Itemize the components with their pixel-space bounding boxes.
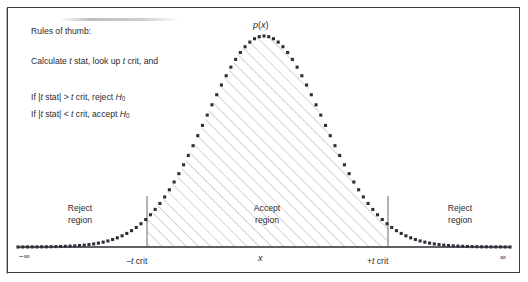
curve-point — [314, 103, 317, 106]
curve-point — [437, 243, 440, 246]
curve-point — [390, 226, 393, 229]
curve-point — [173, 180, 176, 183]
curve-point — [409, 236, 412, 239]
curve-point — [262, 34, 265, 37]
curve-point — [225, 74, 228, 77]
curve-point — [40, 245, 43, 248]
curve-point — [92, 242, 95, 245]
curve-point — [419, 239, 422, 242]
label-reject-region-right: Reject region — [428, 203, 492, 226]
curve-point — [367, 202, 370, 205]
curve-point — [456, 245, 459, 248]
curve-point — [201, 124, 204, 127]
curve-point — [21, 245, 24, 248]
curve-point — [343, 163, 346, 166]
curve-point — [310, 93, 313, 96]
curve-point — [191, 144, 194, 147]
curve-point — [452, 244, 455, 247]
curve-point — [125, 232, 128, 235]
curve-point — [423, 241, 426, 244]
curve-point — [229, 66, 232, 69]
curve-point — [376, 213, 379, 216]
curve-point — [210, 103, 213, 106]
curve-point — [215, 93, 218, 96]
curve-point — [466, 245, 469, 248]
curve-point — [471, 245, 474, 248]
curve-point — [64, 245, 67, 248]
curve-point — [59, 245, 62, 248]
curve-point — [485, 245, 488, 248]
curve-point — [73, 244, 76, 247]
curve-point — [50, 245, 53, 248]
curve-point — [144, 218, 147, 221]
curve-point — [319, 114, 322, 117]
curve-point — [329, 134, 332, 137]
curve-point — [168, 188, 171, 191]
label-reject-region-left: Reject region — [48, 203, 112, 226]
curve-point — [480, 245, 483, 248]
curve-point — [196, 134, 199, 137]
curve-point — [357, 188, 360, 191]
curve-point — [97, 242, 100, 245]
plot-svg — [0, 0, 528, 282]
curve-point — [461, 245, 464, 248]
curve-point — [16, 245, 19, 248]
curve-point — [106, 239, 109, 242]
label-pdf: p(x) — [253, 20, 269, 30]
curve-point — [338, 154, 341, 157]
curve-point — [139, 222, 142, 225]
distribution-plot — [0, 0, 528, 282]
label-accept-region: Accept region — [232, 203, 302, 226]
curve-point — [305, 83, 308, 86]
curve-point — [78, 244, 81, 247]
curve-point — [433, 242, 436, 245]
label-x-axis: x — [258, 253, 263, 263]
curve-point — [291, 58, 294, 61]
curve-point — [447, 244, 450, 247]
curve-point — [300, 74, 303, 77]
curve-point — [258, 35, 261, 38]
curve-point — [442, 244, 445, 247]
curve-point — [494, 245, 497, 248]
curve-point — [45, 245, 48, 248]
curve-point — [371, 208, 374, 211]
curve-point — [324, 124, 327, 127]
curve-point — [135, 226, 138, 229]
curve-point — [272, 37, 275, 40]
curve-point — [187, 154, 190, 157]
label-positive-infinity: ∞ — [500, 253, 506, 262]
curve-point — [177, 172, 180, 175]
curve-point — [68, 245, 71, 248]
curve-point — [239, 51, 242, 54]
curve-point — [31, 245, 34, 248]
curve-point — [333, 144, 336, 147]
label-t-crit-positive: +t crit — [367, 256, 388, 266]
curve-point — [102, 241, 105, 244]
curve-point — [116, 236, 119, 239]
curve-point — [504, 245, 507, 248]
curve-point — [277, 41, 280, 44]
label-t-crit-negative: −t crit — [126, 256, 147, 266]
curve-point — [111, 238, 114, 241]
curve-point — [248, 41, 251, 44]
curve-point — [352, 180, 355, 183]
curve-point — [234, 58, 237, 61]
curve-point — [244, 45, 247, 48]
curve-point — [220, 83, 223, 86]
curve-point — [281, 45, 284, 48]
curve-point — [286, 51, 289, 54]
curve-point — [475, 245, 478, 248]
curve-point — [163, 195, 166, 198]
curve-point — [154, 208, 157, 211]
curve-point — [130, 229, 133, 232]
curve-point — [83, 244, 86, 247]
curve-point — [253, 37, 256, 40]
curve-point — [348, 172, 351, 175]
curve-point — [54, 245, 57, 248]
curve-point — [400, 232, 403, 235]
curve-point — [26, 245, 29, 248]
curve-point — [499, 245, 502, 248]
curve-point — [381, 218, 384, 221]
curve-point — [121, 234, 124, 237]
curve-point — [362, 195, 365, 198]
